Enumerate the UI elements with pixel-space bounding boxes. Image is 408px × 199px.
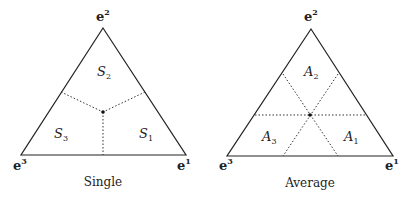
single-center-dot [101, 110, 105, 114]
average-caption: Average [284, 176, 335, 190]
simplex-diagrams: e2 e3 e1 S2 S3 S1 Single e2 e3 e1 A2 A3 … [0, 0, 408, 199]
average-figure: e2 e3 e1 A2 A3 A1 Average [219, 7, 399, 190]
average-region-bottom-right: A1 [343, 129, 358, 146]
single-partition-lines [61, 92, 145, 155]
single-divider-right [103, 92, 145, 112]
single-region-bottom-right: S1 [139, 126, 153, 143]
single-vertex-bottom-right: e1 [177, 156, 191, 173]
single-region-top: S2 [97, 64, 111, 81]
average-region-top: A2 [303, 64, 318, 81]
average-vertex-bottom-left: e3 [219, 156, 233, 173]
single-region-bottom-left: S3 [54, 126, 68, 143]
single-vertex-bottom-left: e3 [13, 156, 27, 173]
single-vertex-top: e2 [96, 7, 110, 24]
average-triangle [227, 29, 393, 156]
single-caption: Single [84, 175, 122, 189]
average-vertex-top: e2 [304, 7, 318, 24]
average-center-dot [308, 113, 312, 117]
average-region-bottom-left: A3 [261, 129, 276, 146]
single-figure: e2 e3 e1 S2 S3 S1 Single [13, 7, 191, 189]
single-divider-left [61, 92, 103, 112]
average-vertex-bottom-right: e1 [385, 156, 399, 173]
single-triangle [21, 28, 186, 155]
